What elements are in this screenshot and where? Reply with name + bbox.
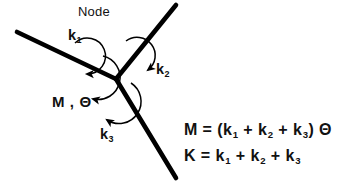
equation-stiffness-sub2: 2 (260, 155, 266, 166)
member-label-k2-main: k (156, 61, 164, 77)
member-label-k2-sub: 2 (164, 69, 170, 79)
equation-moment-equals: = (203, 121, 213, 138)
member-label-k3: k3 (100, 127, 114, 144)
equation-stiffness-plus2: + k (271, 147, 295, 164)
equation-stiffness-sub1: 1 (225, 155, 231, 166)
member-line-k3 (116, 79, 176, 178)
node-stiffness-diagram (0, 0, 355, 183)
equation-stiffness-equals: = (201, 147, 211, 164)
member-label-k3-sub: 3 (108, 134, 114, 144)
rotation-arc-k2 (126, 37, 155, 70)
moment-rotation-label: M , Θ (52, 94, 92, 109)
equation-moment: M = (k1 + k2 + k3) Θ (184, 122, 332, 140)
member-label-k1: k1 (68, 28, 82, 45)
member-label-k1-main: k (68, 27, 76, 43)
equation-moment-lhs: M (184, 121, 198, 138)
equation-moment-sub2: 2 (267, 129, 273, 140)
equation-moment-close: ) (308, 121, 314, 138)
equation-stiffness-lhs: K (184, 147, 196, 164)
equation-stiffness-plus1: + k (236, 147, 260, 164)
equation-stiffness: K = k1 + k2 + k3 (184, 148, 301, 166)
figure-canvas: Node k1 k2 k3 M , Θ M = (k1 + k2 + k3) Θ… (0, 0, 355, 183)
member-line-k1 (17, 32, 116, 79)
equation-stiffness-sub3: 3 (295, 155, 301, 166)
member-label-k2: k2 (156, 62, 170, 79)
equation-stiffness-open: k (215, 147, 224, 164)
equation-moment-theta: Θ (319, 121, 332, 138)
equation-moment-open: (k (217, 121, 232, 138)
structural-members (17, 5, 176, 178)
equation-moment-sub1: 1 (232, 129, 238, 140)
member-label-k3-main: k (100, 126, 108, 142)
equation-moment-plus1: + k (243, 121, 267, 138)
node-label: Node (78, 5, 110, 18)
equation-moment-plus2: + k (278, 121, 302, 138)
member-label-k1-sub: 1 (76, 35, 82, 45)
